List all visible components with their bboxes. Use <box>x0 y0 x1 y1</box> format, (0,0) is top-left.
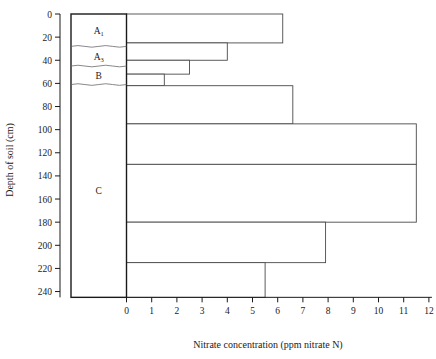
x-tick-label: 10 <box>374 306 384 316</box>
x-tick-label: 6 <box>275 306 280 316</box>
soil-profile-column: A1A3BC <box>71 14 127 297</box>
x-tick-label: 5 <box>250 306 255 316</box>
x-tick-label: 2 <box>175 306 180 316</box>
x-tick-label: 8 <box>326 306 331 316</box>
bar <box>127 60 190 74</box>
chart-svg: A1A3BC 020406080100120140160180200220240… <box>0 0 436 359</box>
bar <box>127 222 326 262</box>
bar <box>127 263 266 298</box>
y-tick-label: 0 <box>47 10 52 20</box>
y-tick-label: 80 <box>43 102 53 112</box>
x-tick-label: 0 <box>124 306 129 316</box>
bar <box>127 43 228 60</box>
y-tick-label: 140 <box>38 171 53 181</box>
y-tick-label: 240 <box>38 287 53 297</box>
bar <box>127 74 165 86</box>
bar <box>127 164 417 222</box>
x-tick-label: 9 <box>351 306 356 316</box>
horizon-label: C <box>96 186 102 196</box>
y-tick-label: 220 <box>38 264 53 274</box>
y-tick-label: 120 <box>38 148 53 158</box>
x-axis: 0123456789101112 <box>124 297 434 316</box>
x-tick-label: 1 <box>149 306 154 316</box>
bars-group <box>127 14 417 297</box>
x-tick-label: 3 <box>200 306 205 316</box>
y-tick-label: 20 <box>43 33 53 43</box>
y-axis-title: Depth of soil (cm) <box>4 123 16 197</box>
x-tick-label: 4 <box>225 306 230 316</box>
x-tick-label: 7 <box>301 306 306 316</box>
bar <box>127 86 293 124</box>
nitrate-depth-chart: A1A3BC 020406080100120140160180200220240… <box>0 0 436 359</box>
x-tick-label: 12 <box>424 306 434 316</box>
bar <box>127 124 417 164</box>
y-tick-label: 200 <box>38 241 53 251</box>
horizon-label: B <box>96 71 102 81</box>
x-axis-title: Nitrate concentration (ppm nitrate N) <box>193 339 342 351</box>
y-tick-label: 160 <box>38 195 53 205</box>
x-tick-label: 11 <box>399 306 408 316</box>
bar <box>127 14 283 43</box>
y-tick-label: 180 <box>38 218 53 228</box>
y-tick-label: 60 <box>43 79 53 89</box>
y-tick-label: 40 <box>43 56 53 66</box>
y-tick-label: 100 <box>38 125 53 135</box>
y-axis: 020406080100120140160180200220240 <box>38 10 60 298</box>
